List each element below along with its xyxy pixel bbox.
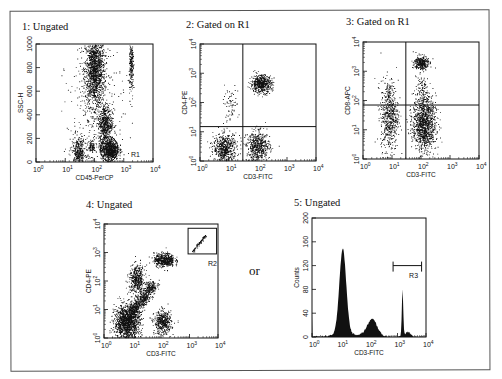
panel-title-2: 2: Gated on R1 bbox=[186, 19, 250, 30]
y-tick-label: 40 bbox=[302, 309, 309, 317]
scatter-plot-ungated-cd3-cd4: 100101102103104100101102103104CD3-FITCCD… bbox=[104, 224, 219, 339]
y-axis-label: Counts bbox=[293, 266, 300, 287]
axes: 100101102103104100101102103104CD3-FITCCD… bbox=[181, 38, 324, 180]
gate-r2-label: R2 bbox=[208, 260, 217, 267]
y-tick-label: 800 bbox=[26, 62, 33, 74]
x-axis-label: CD3-FITC bbox=[243, 173, 273, 180]
y-tick-label: 1000 bbox=[26, 36, 33, 52]
gate-r3-label: R3 bbox=[409, 272, 418, 279]
gate-r2-rect bbox=[188, 228, 217, 254]
y-axis-label: SSC-H bbox=[17, 93, 24, 114]
scatter-plot-cd45-ssc: 10010110210310402004006008001000CD45-Per… bbox=[36, 44, 154, 163]
scatter-plot-cd3-cd4: 100101102103104100101102103104CD3-FITCCD… bbox=[200, 44, 317, 162]
y-axis-label: CD8-APC bbox=[344, 86, 351, 115]
y-axis-label: CD4-PE bbox=[85, 268, 92, 293]
data-points bbox=[207, 70, 280, 161]
y-tick-label: 120 bbox=[302, 260, 309, 272]
axes: 100101102103104100101102103104CD3-FITCCD… bbox=[344, 36, 487, 178]
scatter-plot-cd3-cd8: 100101102103104100101102103104CD3-FITCCD… bbox=[363, 42, 480, 160]
y-tick-label: 0 bbox=[26, 160, 33, 164]
histogram-cd3: 10010110210310404080120160200CD3-FITCCou… bbox=[312, 218, 427, 338]
y-axis-label: CD4-PE bbox=[181, 90, 188, 115]
panel-title-5: 5: Ungated bbox=[294, 197, 340, 208]
x-axis-label: CD3-FITC bbox=[146, 350, 176, 357]
panel-title-1: 1: Ungated bbox=[22, 21, 68, 32]
histogram-area bbox=[312, 248, 426, 337]
y-tick-label: 600 bbox=[26, 85, 33, 97]
y-tick-label: 0 bbox=[302, 335, 309, 339]
y-tick-label: 200 bbox=[26, 132, 33, 144]
y-tick-label: 200 bbox=[302, 212, 309, 224]
x-axis-label: CD3-FITC bbox=[354, 349, 384, 356]
y-tick-label: 80 bbox=[302, 285, 309, 293]
x-axis-label: CD3-FITC bbox=[406, 171, 436, 178]
x-axis-label: CD45-PerCP bbox=[76, 174, 114, 181]
panel-title-4: 4: Ungated bbox=[86, 199, 132, 210]
y-tick-label: 160 bbox=[302, 236, 309, 248]
panel-title-3: 3: Gated on R1 bbox=[346, 16, 410, 27]
data-points bbox=[110, 235, 207, 338]
y-tick-label: 400 bbox=[26, 109, 33, 121]
gate-r1-label: R1 bbox=[131, 151, 140, 158]
data-points bbox=[61, 45, 134, 163]
or-label: or bbox=[249, 263, 260, 279]
gate-r3-marker bbox=[393, 262, 422, 272]
